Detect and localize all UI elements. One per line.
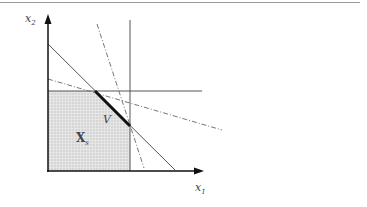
vertex-set-label: V — [103, 113, 112, 126]
y-axis-arrow-icon — [45, 14, 52, 24]
x-axis-label: x1 — [195, 181, 206, 196]
feasible-region-diagram: x2 x1 V Xs — [0, 0, 367, 207]
x-axis-arrow-icon — [194, 168, 204, 175]
feasible-region-shading — [48, 91, 130, 171]
y-axis-label: x2 — [25, 12, 36, 27]
